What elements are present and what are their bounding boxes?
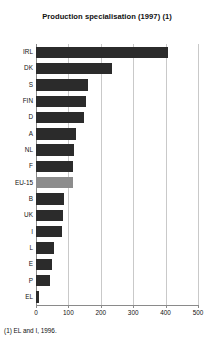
bar-i (36, 226, 62, 237)
tick-mark-400 (166, 305, 167, 308)
chart-title: Production specialisation (1997) (1) (0, 12, 214, 22)
x-tick-label-400: 400 (151, 309, 181, 317)
bar-row (36, 109, 198, 125)
category-label-nl: NL (25, 146, 33, 154)
chart-footnote: (1) EL and I, 1996. (4, 327, 57, 335)
bar-row (36, 256, 198, 272)
chart-figure: Production specialisation (1997) (1) IRL… (0, 0, 214, 345)
x-tick-label-200: 200 (86, 309, 116, 317)
category-label-el: EL (25, 293, 33, 301)
bar-l (36, 242, 54, 253)
category-label-f: F (29, 162, 33, 170)
bar-row (36, 77, 198, 93)
bar-e (36, 259, 52, 270)
bar-nl (36, 144, 74, 155)
x-axis-line (36, 305, 199, 306)
bar-row (36, 289, 198, 305)
bar-row (36, 60, 198, 76)
plot-area (36, 44, 198, 305)
bar-f (36, 161, 73, 172)
category-label-s: S (29, 81, 33, 89)
bar-row (36, 126, 198, 142)
x-tick-label-300: 300 (118, 309, 148, 317)
bar-b (36, 193, 64, 204)
bar-irl (36, 47, 168, 58)
tick-mark-200 (101, 305, 102, 308)
bar-row (36, 207, 198, 223)
x-tick-label-100: 100 (53, 309, 83, 317)
tick-mark-0 (36, 305, 37, 308)
bar-fin (36, 96, 86, 107)
bar-row (36, 175, 198, 191)
bar-a (36, 128, 76, 139)
bar-s (36, 79, 88, 90)
tick-mark-500 (198, 305, 199, 308)
category-label-irl: IRL (23, 48, 33, 56)
bar-row (36, 223, 198, 239)
bar-uk (36, 210, 63, 221)
gridline-500 (198, 44, 199, 305)
bar-row (36, 93, 198, 109)
bar-dk (36, 63, 112, 74)
category-label-d: D (28, 113, 33, 121)
bar-row (36, 44, 198, 60)
category-label-uk: UK (24, 211, 33, 219)
tick-mark-300 (133, 305, 134, 308)
category-label-l: L (29, 244, 33, 252)
bar-p (36, 275, 50, 286)
bar-eu-15 (36, 177, 73, 188)
category-label-i: I (31, 228, 33, 236)
bar-row (36, 191, 198, 207)
bar-row (36, 240, 198, 256)
category-label-e: E (29, 260, 33, 268)
bar-el (36, 291, 39, 302)
category-label-p: P (29, 277, 33, 285)
x-tick-label-500: 500 (183, 309, 213, 317)
category-label-a: A (29, 130, 33, 138)
bar-row (36, 158, 198, 174)
category-label-fin: FIN (23, 97, 33, 105)
tick-mark-100 (68, 305, 69, 308)
category-label-eu-15: EU-15 (15, 179, 33, 187)
category-label-b: B (29, 195, 33, 203)
bar-row (36, 142, 198, 158)
category-label-dk: DK (24, 64, 33, 72)
bar-d (36, 112, 84, 123)
x-tick-label-0: 0 (21, 309, 51, 317)
bar-row (36, 272, 198, 288)
